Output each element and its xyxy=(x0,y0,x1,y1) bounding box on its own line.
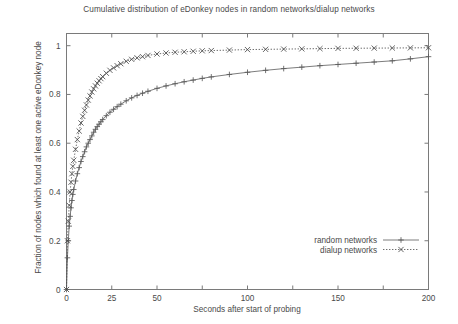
chart-legend: random networksdialup networks xyxy=(314,236,419,255)
y-tick-label: 0.8 xyxy=(49,90,61,99)
x-tick-label: 0 xyxy=(64,294,69,303)
plot-area: 02550100150200 00.20.40.60.81 random net… xyxy=(0,0,458,324)
y-tick-label: 0.2 xyxy=(49,237,61,246)
x-tick-label: 50 xyxy=(152,294,162,303)
y-tick-label: 0.6 xyxy=(49,139,61,148)
chart-figure: Cumulative distribution of eDonkey nodes… xyxy=(0,0,458,324)
legend-label-1: random networks xyxy=(314,236,377,245)
y-axis-ticks: 00.20.40.60.81 xyxy=(49,42,428,295)
x-tick-label: 25 xyxy=(107,294,117,303)
y-tick-label: 0 xyxy=(56,286,61,295)
data-series-1 xyxy=(64,54,432,292)
legend-label-2: dialup networks xyxy=(320,246,377,255)
x-tick-label: 150 xyxy=(331,294,345,303)
x-tick-label: 200 xyxy=(422,294,436,303)
x-tick-label: 100 xyxy=(241,294,255,303)
data-series-2 xyxy=(64,45,431,292)
x-axis-ticks: 02550100150200 xyxy=(64,34,436,303)
data-series-layer xyxy=(64,45,432,292)
y-tick-label: 1 xyxy=(56,42,61,51)
y-tick-label: 0.4 xyxy=(49,188,61,197)
